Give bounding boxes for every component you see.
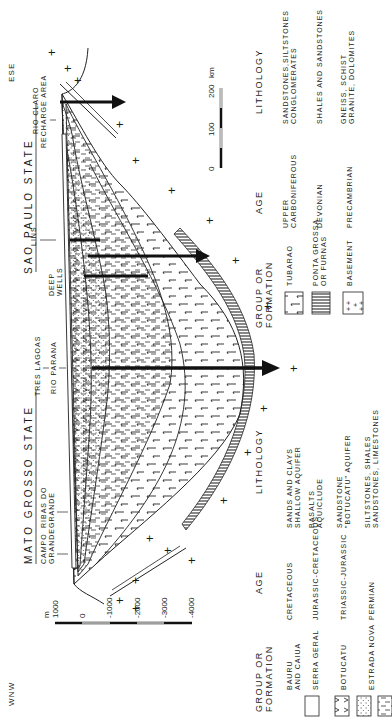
legend-right-header-group-2: FORMATION [264, 261, 274, 328]
distance-scale: 0 100 200 km [207, 67, 221, 171]
svg-text:+: + [257, 405, 271, 412]
legend-bauru-litho-1: SANDS AND CLAYS [286, 448, 293, 528]
legend-right-header-lithology: LITHOLOGY [254, 49, 264, 114]
place-ribas-1: RIBAS DO [40, 487, 47, 528]
legend-left-header-group-1: GROUP OR [254, 651, 264, 712]
legend-tubarao-litho-1: SANDSTONES,SILTSTONES [282, 10, 289, 124]
svg-text:+: + [129, 157, 143, 164]
swatch-ponta-grossa [312, 292, 330, 314]
legend-bauru-age: CRETACEOUS [286, 562, 293, 620]
legend-right-header-age: AGE [254, 190, 264, 214]
legend-right-header-group-1: GROUP OR [254, 267, 264, 328]
legend-botucatu-litho-1: SANDSTONE [336, 476, 343, 528]
swatch-serra-geral [335, 696, 349, 716]
depth-tick-minus-2000: -2000 [133, 597, 142, 618]
cross-section: +++ +++ +++ +++ +++ +++ + [45, 48, 301, 612]
legend-left-header-lithology: LITHOLOGY [254, 429, 264, 494]
svg-text:+: + [217, 497, 231, 504]
direction-wnw: WNW [7, 682, 16, 706]
depth-tick-1000: 1000 [51, 600, 60, 618]
place-rio-claro-1: RIO CLARO [32, 86, 39, 134]
legend-basement-age: PRECAMBRIAN [346, 166, 353, 228]
place-rio-claro-2: RECHARGE AREA [40, 75, 47, 148]
legend-basement-group: BASEMENT [346, 239, 353, 286]
swatch-bauru [305, 696, 319, 716]
svg-text:+: + [61, 65, 75, 72]
distance-tick-0: 0 [207, 166, 216, 171]
legend-botucatu-group: BOTUCATU [340, 644, 347, 690]
legend-tubarao-age-2: CARBONIFEROUS [290, 154, 297, 228]
state-sao-paulo: SAO PAULO STATE [23, 138, 34, 274]
legend-left-header-age: AGE [254, 570, 264, 594]
place-ribas-2: GRANDE [48, 492, 55, 528]
place-deep-wells-2: WELLS [56, 267, 63, 296]
legend-estrada-nova-litho-1: SILTSTONES, SHALES [364, 436, 371, 528]
swatch-basement-cross: + + [345, 301, 352, 311]
legend-serra-geral-litho-2: AQUICLUDE [316, 478, 324, 528]
svg-text:+: + [45, 49, 59, 56]
depth-tick-minus-3000: -3000 [160, 597, 169, 618]
legend-ponta-grossa-group-2: OR FURNAS [320, 236, 327, 286]
legend-tubarao-litho-2: CONGLOMERATES [290, 47, 297, 124]
place-deep-wells-1: DEEP [48, 273, 55, 296]
svg-text:+: + [71, 77, 85, 84]
depth-tick-0: 0 [78, 613, 87, 618]
svg-text:+: + [185, 557, 199, 564]
legend-serra-geral-age: JURASSIC-CRETACEOUS [312, 516, 319, 620]
legend-ponta-grossa-age: DEVONIAN [316, 183, 323, 228]
depth-unit: m [42, 611, 51, 618]
place-campo-grande-1: CAMPO [40, 533, 47, 564]
swatch-tubarao [285, 292, 303, 314]
legend-estrada-nova-age: PERMIAN [368, 581, 375, 620]
legend: GROUP OR FORMATION AGE LITHOLOGY BAURU A… [254, 9, 392, 716]
legend-serra-geral-litho-1: BASALTS [308, 490, 315, 528]
legend-bauru-group-1: BAURU [286, 660, 293, 690]
legend-botucatu-litho-2: "BOTUCATU" AQUIFER [344, 434, 352, 528]
swatch-estrada-nova [378, 696, 392, 716]
legend-serra-geral-group: SERRA GERAL [312, 630, 319, 690]
legend-estrada-nova-group: ESTRADA NOVA [368, 624, 375, 690]
depth-tick-minus-4000: -4000 [187, 597, 196, 618]
legend-basement-litho-1: GNEISS, SCHIST [340, 54, 347, 124]
state-labels: MATO GROSSO STATE SAO PAULO STATE [23, 104, 36, 564]
legend-tubarao-group: TUBARAO [286, 245, 293, 286]
svg-text:+: + [113, 597, 127, 604]
svg-text:+ +: + + [358, 301, 365, 311]
svg-text:+: + [229, 257, 243, 264]
direction-labels: WNW ESE [7, 62, 16, 706]
legend-ponta-grossa-group-1: PONTA GROSSA [312, 219, 319, 286]
legend-ponta-grossa-litho: SHALES AND SANDSTONES [316, 9, 323, 124]
distance-unit: km [207, 67, 216, 78]
svg-text:+: + [129, 577, 143, 584]
legend-basement-litho-2: GRANITE, DOLOMITES [348, 30, 355, 124]
depth-tick-minus-1000: -1000 [105, 597, 114, 618]
legend-left-header-group-2: FORMATION [264, 645, 274, 712]
distance-tick-100: 100 [207, 122, 216, 136]
svg-text:+: + [203, 217, 217, 224]
legend-estrada-nova-litho-2: SANDSTONES, LIMESTONES [372, 409, 379, 528]
svg-text:+: + [287, 365, 301, 372]
geological-cross-section-figure: WNW ESE MATO GROSSO STATE SAO PAULO STAT… [0, 0, 392, 724]
svg-text:+: + [165, 187, 179, 194]
place-rio-parana: RIO PARANA [50, 341, 57, 394]
swatch-botucatu [357, 696, 371, 716]
legend-bauru-group-2: AND CAIUA [294, 643, 301, 690]
place-tres-lagoas: TRES LAGOAS [34, 336, 41, 396]
place-campo-grande-2: GRANDE [48, 528, 55, 564]
distance-tick-200: 200 [207, 84, 216, 98]
svg-text:+: + [161, 547, 175, 554]
place-lins: LINS [30, 226, 37, 246]
legend-tubarao-age-1: UPPER [282, 199, 289, 228]
direction-ese: ESE [7, 62, 16, 82]
legend-bauru-litho-2: SHALLOW AQUIFER [294, 446, 302, 528]
legend-botucatu-age: TRIASSIC-JURASSIC [340, 534, 347, 620]
svg-text:+: + [113, 121, 127, 128]
svg-text:+: + [143, 535, 157, 542]
state-mato-grosso: MATO GROSSO STATE [23, 405, 34, 564]
svg-text:+: + [241, 449, 255, 456]
